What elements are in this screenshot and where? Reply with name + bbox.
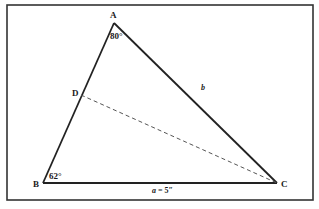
angle-label-a: 80° xyxy=(110,31,123,41)
side-ab xyxy=(43,23,114,183)
segment-dc-dashed xyxy=(81,95,277,183)
triangle-diagram: A B C D 80° 62° b a = 5″ xyxy=(0,0,319,209)
vertex-label-b: B xyxy=(33,179,39,189)
side-label-b: b xyxy=(201,83,205,92)
angle-label-b: 62° xyxy=(49,171,62,181)
point-label-d: D xyxy=(72,88,79,98)
side-label-a: a = 5″ xyxy=(152,186,173,195)
side-ac xyxy=(114,23,277,183)
vertex-label-a: A xyxy=(110,10,117,20)
vertex-label-c: C xyxy=(281,179,288,189)
side-label-a-value: = 5″ xyxy=(156,186,173,195)
